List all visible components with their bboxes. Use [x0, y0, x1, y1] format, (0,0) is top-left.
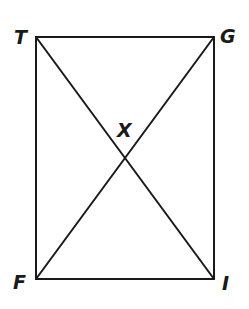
vertex-label-T: T [14, 26, 29, 48]
vertex-label-F: F [13, 271, 26, 293]
vertex-label-I: I [222, 272, 229, 294]
vertex-label-G: G [220, 25, 236, 47]
intersection-label-X: X [116, 119, 133, 141]
rectangle-diagram: T G I F X [0, 0, 249, 309]
